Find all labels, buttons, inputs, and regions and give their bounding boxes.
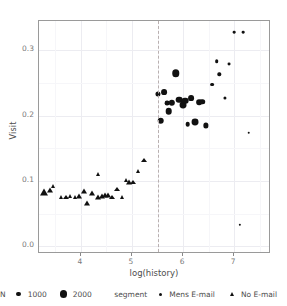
- legend-item-n-2000[interactable]: 2000: [57, 290, 92, 299]
- data-point: [233, 31, 236, 34]
- x-axis-tick-label: 6: [172, 257, 192, 266]
- gridline-vertical: [132, 21, 133, 252]
- data-point: [218, 72, 221, 75]
- data-point: [169, 99, 175, 105]
- legend-label-n-1000: 1000: [28, 290, 47, 299]
- data-point: [210, 83, 214, 87]
- gridline-vertical-minor: [106, 21, 107, 252]
- gridline-vertical: [183, 21, 184, 252]
- legend-label-no-email: No E-mail: [241, 290, 277, 299]
- data-point: [141, 158, 147, 162]
- legend-title-n: N: [0, 290, 6, 299]
- data-point: [199, 99, 205, 105]
- data-point: [114, 187, 120, 191]
- data-point: [161, 90, 167, 96]
- gridline-vertical: [234, 21, 235, 252]
- x-axis-tick-mark: [233, 253, 234, 256]
- data-point: [192, 119, 199, 126]
- x-axis-tick-mark: [80, 253, 81, 256]
- x-axis-title: log(history): [38, 268, 270, 278]
- legend-group-size: N 1000 2000: [0, 290, 102, 299]
- data-point: [242, 31, 245, 34]
- legend-item-mens-email[interactable]: Mens E-mail: [153, 290, 215, 299]
- x-axis-tick-mark: [131, 253, 132, 256]
- plot-panel: [38, 20, 270, 253]
- data-point: [136, 169, 140, 173]
- data-point: [227, 63, 230, 66]
- x-axis-tick-label: 5: [121, 257, 141, 266]
- y-axis-tick-label: 0.3: [12, 45, 34, 53]
- data-point: [223, 96, 226, 99]
- legend-item-n-1000[interactable]: 1000: [12, 290, 47, 299]
- data-point: [47, 188, 53, 193]
- circle-icon: [153, 293, 167, 296]
- data-point: [96, 172, 100, 176]
- data-point: [76, 194, 82, 199]
- scatter-plot-figure: Visit 0.00.10.20.3 4567 log(history) N 1…: [0, 0, 287, 306]
- legend-label-n-2000: 2000: [73, 290, 92, 299]
- gridline-horizontal-minor: [39, 83, 269, 84]
- threshold-vertical-line: [158, 21, 159, 252]
- data-point: [130, 180, 136, 184]
- gridline-horizontal-minor: [39, 148, 269, 149]
- y-axis-tick-label: 0.2: [12, 111, 34, 119]
- legend-title-segment: segment: [114, 290, 147, 299]
- gridline-vertical-minor: [260, 21, 261, 252]
- legend-group-segment: segment Mens E-mail No E-mail: [114, 290, 287, 299]
- gridline-horizontal-minor: [39, 214, 269, 215]
- data-point: [51, 184, 55, 188]
- gridline-vertical-minor: [209, 21, 210, 252]
- data-point: [203, 123, 208, 128]
- gridline-vertical: [81, 21, 82, 252]
- data-point: [247, 132, 250, 135]
- data-point: [172, 69, 179, 76]
- legend-item-no-email[interactable]: No E-mail: [225, 290, 277, 299]
- x-axis-tick-mark: [182, 253, 183, 256]
- y-axis-tick-label: 0.0: [12, 241, 34, 249]
- data-point: [239, 224, 241, 226]
- x-axis-tick-label: 7: [223, 257, 243, 266]
- gridline-vertical-minor: [55, 21, 56, 252]
- y-axis-tick-labels: 0.00.10.20.3: [10, 0, 34, 306]
- data-point: [185, 122, 190, 127]
- data-point: [109, 195, 115, 199]
- chart-legend: N 1000 2000 segment Mens E-mail No E-mai…: [0, 286, 287, 302]
- x-axis-tick-label: 4: [70, 257, 90, 266]
- data-point: [215, 60, 219, 64]
- circle-large-icon: [57, 290, 71, 298]
- legend-label-mens-email: Mens E-mail: [169, 290, 215, 299]
- y-axis-tick-label: 0.1: [12, 176, 34, 184]
- data-point: [188, 95, 194, 101]
- data-point: [68, 194, 72, 198]
- data-point: [84, 200, 90, 205]
- data-point: [120, 195, 124, 199]
- circle-small-icon: [12, 292, 26, 297]
- triangle-icon: [225, 292, 239, 296]
- data-point: [166, 108, 173, 115]
- data-point: [81, 189, 87, 194]
